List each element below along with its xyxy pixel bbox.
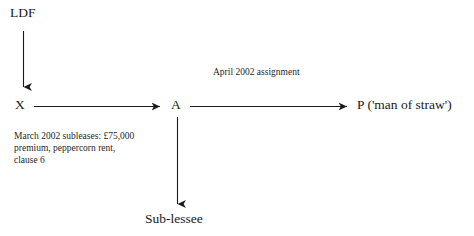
connector-layer xyxy=(0,0,474,236)
node-label-x: X xyxy=(15,98,25,112)
node-label-ldf: LDF xyxy=(10,6,36,20)
node-label-sublessee: Sub-lessee xyxy=(145,212,203,226)
node-label-a: A xyxy=(171,98,181,112)
node-label-p: P ('man of straw') xyxy=(357,98,452,112)
annotation-march-subleases: March 2002 subleases: £75,000 premium, p… xyxy=(14,131,134,166)
diagram-canvas: LDF X A P ('man of straw') Sub-lessee Ap… xyxy=(0,0,474,236)
annotation-april-assignment: April 2002 assignment xyxy=(213,67,300,79)
